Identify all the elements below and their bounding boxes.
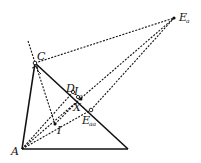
side-ac (22, 63, 35, 149)
label-c: C (37, 50, 46, 63)
label-ia-sub: a (79, 92, 83, 99)
line-a-ea-via-ia (22, 18, 174, 149)
label-eaa-sub: aa (89, 120, 97, 127)
point-eaa (89, 108, 93, 112)
point-ea (172, 16, 175, 19)
geometry-diagram: A C D I a X I E aa E a (0, 0, 201, 163)
label-x: X (72, 101, 82, 114)
label-ea-sub: a (186, 17, 190, 24)
label-a: A (10, 145, 19, 158)
label-i: I (56, 124, 62, 137)
